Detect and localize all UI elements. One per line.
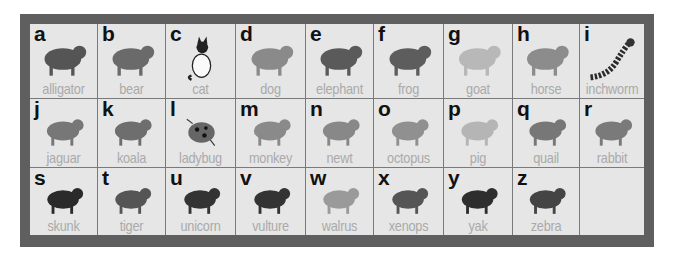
animal-card-elephant: e elephant: [306, 24, 374, 99]
card-label: inchworm: [585, 81, 639, 97]
animal-card-tiger: t tiger: [98, 168, 166, 235]
card-letter: v: [240, 168, 252, 189]
card-letter: r: [584, 99, 592, 120]
card-letter: u: [170, 168, 183, 189]
animal-card-newt: n newt: [306, 99, 374, 168]
alphabet-grid: a alligator b bear c cat d dog e elephan…: [30, 24, 644, 235]
card-label: skunk: [35, 218, 92, 234]
card-label: horse: [518, 81, 574, 97]
rabbit-icon: [586, 109, 640, 153]
card-label: xenops: [379, 218, 438, 234]
animal-card-cat: c cat: [166, 24, 236, 99]
card-label: alligator: [35, 81, 92, 97]
card-label: quail: [518, 150, 574, 166]
animal-card-zebra: z zebra: [513, 168, 580, 235]
card-label: bear: [103, 81, 160, 97]
card-letter: g: [448, 24, 461, 45]
animal-card-frog: f frog: [374, 24, 444, 99]
animal-card-yak: y yak: [444, 168, 513, 235]
animal-card-vulture: v vulture: [236, 168, 306, 235]
animal-card-jaguar: j jaguar: [30, 99, 98, 168]
ladybug-icon: [172, 109, 231, 153]
animal-card-octopus: o octopus: [374, 99, 444, 168]
card-letter: s: [34, 168, 46, 189]
card-label: monkey: [241, 150, 300, 166]
card-letter: t: [102, 168, 109, 189]
card-label: walrus: [311, 218, 368, 234]
card-label: ladybug: [171, 150, 230, 166]
animal-card-inchworm: i inchworm: [580, 24, 644, 99]
alphabet-chart-frame: a alligator b bear c cat d dog e elephan…: [20, 14, 654, 247]
card-letter: p: [448, 99, 461, 120]
card-letter: n: [310, 99, 323, 120]
card-label: elephant: [311, 81, 368, 97]
animal-card-skunk: s skunk: [30, 168, 98, 235]
card-label: unicorn: [171, 218, 230, 234]
tiger-icon: [104, 178, 161, 221]
animal-card-goat: g goat: [444, 24, 513, 99]
card-letter: c: [170, 24, 182, 45]
card-letter: i: [584, 24, 590, 45]
card-label: tiger: [103, 218, 160, 234]
animal-card-pig: p pig: [444, 99, 513, 168]
empty-card: [580, 168, 644, 235]
card-letter: b: [102, 24, 115, 45]
card-letter: m: [240, 99, 259, 120]
card-letter: k: [102, 99, 114, 120]
inchworm-icon: [586, 34, 640, 84]
card-letter: h: [517, 24, 530, 45]
card-letter: d: [240, 24, 253, 45]
card-letter: x: [378, 168, 390, 189]
animal-card-ladybug: l ladybug: [166, 99, 236, 168]
frog-icon: [380, 34, 439, 84]
card-letter: y: [448, 168, 460, 189]
animal-card-rabbit: r rabbit: [580, 99, 644, 168]
card-label: newt: [311, 150, 368, 166]
card-label: frog: [379, 81, 438, 97]
jaguar-icon: [36, 109, 93, 153]
card-letter: q: [517, 99, 530, 120]
card-letter: l: [170, 99, 176, 120]
card-letter: j: [34, 99, 40, 120]
animal-card-horse: h horse: [513, 24, 580, 99]
card-letter: e: [310, 24, 322, 45]
card-label: rabbit: [585, 150, 639, 166]
card-label: cat: [171, 81, 230, 97]
card-letter: w: [310, 168, 326, 189]
empty-slot: [586, 178, 640, 221]
animal-card-dog: d dog: [236, 24, 306, 99]
card-label: koala: [103, 150, 160, 166]
card-letter: f: [378, 24, 385, 45]
animal-card-unicorn: u unicorn: [166, 168, 236, 235]
card-label: pig: [449, 150, 507, 166]
card-label: octopus: [379, 150, 438, 166]
card-letter: a: [34, 24, 46, 45]
card-letter: z: [517, 168, 528, 189]
animal-card-xenops: x xenops: [374, 168, 444, 235]
animal-card-bear: b bear: [98, 24, 166, 99]
card-label: jaguar: [35, 150, 92, 166]
card-label: dog: [241, 81, 300, 97]
card-letter: o: [378, 99, 391, 120]
animal-card-quail: q quail: [513, 99, 580, 168]
animal-card-koala: k koala: [98, 99, 166, 168]
animal-card-alligator: a alligator: [30, 24, 98, 99]
animal-card-walrus: w walrus: [306, 168, 374, 235]
card-label: goat: [449, 81, 507, 97]
animal-card-monkey: m monkey: [236, 99, 306, 168]
card-label: zebra: [518, 218, 574, 234]
card-label: yak: [449, 218, 507, 234]
card-label: vulture: [241, 218, 300, 234]
